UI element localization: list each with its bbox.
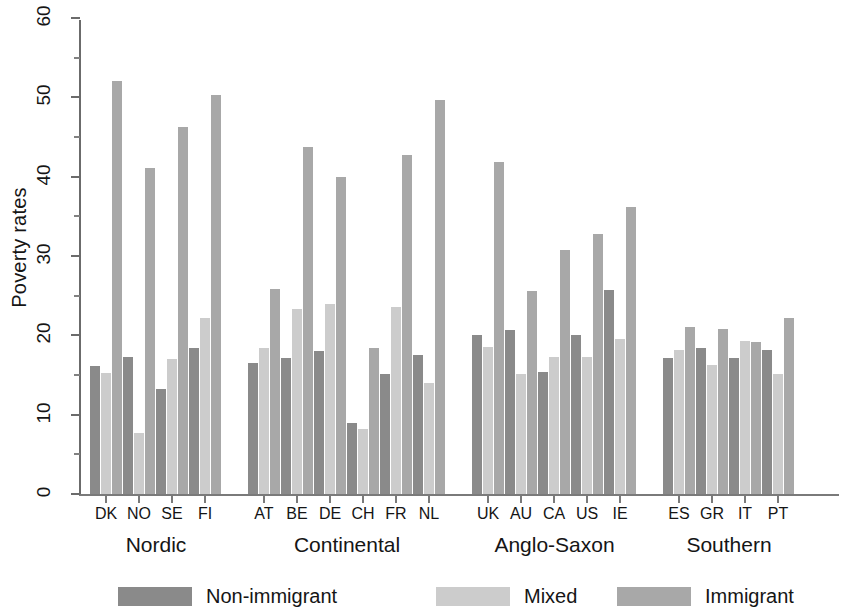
legend-swatch-immigrant [617,587,691,606]
bar-de-non-immigrant [314,351,324,494]
x-tick-ie [619,495,621,503]
country-bars-fr [380,18,413,494]
bar-nl-non-immigrant [413,355,423,494]
legend-label-immigrant: Immigrant [705,585,794,608]
x-tick-no [138,495,140,503]
x-tick-fr [395,495,397,503]
bar-uk-mixed [483,347,493,494]
bar-se-immigrant [178,127,188,494]
x-tick-se [171,495,173,503]
bar-be-mixed [292,309,302,494]
x-tick-at [263,495,265,503]
bar-se-mixed [167,359,177,494]
bar-es-mixed [674,350,684,494]
x-tick-fi [204,495,206,503]
bar-es-immigrant [685,327,695,494]
legend-item-immigrant: Immigrant [617,583,794,609]
x-tick-ch [362,495,364,503]
x-tick-be [296,495,298,503]
y-tick-50 [71,96,80,98]
bar-it-mixed [740,341,750,494]
x-tick-it [744,495,746,503]
x-tick-ca [553,495,555,503]
bar-fr-immigrant [402,155,412,494]
bar-us-non-immigrant [571,335,581,494]
bar-no-non-immigrant [123,357,133,494]
country-bars-at [248,18,281,494]
country-bars-se [156,18,189,494]
y-tick-minor-25 [74,295,80,297]
x-tick-gr [711,495,713,503]
bar-dk-non-immigrant [90,366,100,494]
plot-area [81,18,838,494]
bar-dk-immigrant [112,81,122,494]
legend-swatch-non-immigrant [118,587,192,606]
bar-ca-mixed [549,357,559,494]
bar-de-immigrant [336,177,346,494]
y-tick-10 [71,414,80,416]
bar-se-non-immigrant [156,389,166,495]
country-bars-dk [90,18,123,494]
bar-gr-mixed [707,365,717,494]
bar-no-immigrant [145,168,155,494]
y-tick-label-60: 60 [24,5,64,27]
bar-de-mixed [325,304,335,494]
legend-item-mixed: Mixed [436,583,577,609]
country-label-nl: NL [399,505,459,523]
country-label-pt: PT [748,505,808,523]
country-bars-gr [696,18,729,494]
country-bars-au [505,18,538,494]
bar-pt-immigrant [784,318,794,494]
bar-us-immigrant [593,234,603,494]
bar-fi-mixed [200,318,210,494]
bar-ch-non-immigrant [347,423,357,494]
y-tick-label-20: 20 [24,322,64,344]
country-bars-ie [604,18,637,494]
y-tick-30 [71,255,80,257]
bar-it-immigrant [751,342,761,494]
y-tick-40 [71,176,80,178]
bar-fr-mixed [391,307,401,494]
x-tick-es [678,495,680,503]
bar-be-immigrant [303,147,313,494]
bar-ca-non-immigrant [538,372,548,494]
y-tick-label-10: 10 [24,402,64,424]
bar-be-non-immigrant [281,358,291,494]
y-tick-minor-15 [74,374,80,376]
country-bars-nl [413,18,446,494]
x-tick-de [329,495,331,503]
bar-ie-mixed [615,339,625,494]
bar-ie-immigrant [626,207,636,494]
y-tick-60 [71,17,80,19]
bar-uk-immigrant [494,162,504,494]
chart-legend: Non-immigrantMixedImmigrant [0,583,843,613]
bar-au-non-immigrant [505,330,515,494]
bar-at-mixed [259,348,269,494]
y-tick-0 [71,493,80,495]
x-tick-nl [428,495,430,503]
x-axis-line [79,494,839,496]
y-tick-minor-55 [74,57,80,59]
y-tick-label-30: 30 [24,243,64,265]
y-tick-minor-35 [74,215,80,217]
legend-label-mixed: Mixed [524,585,577,608]
x-tick-dk [105,495,107,503]
bar-ch-mixed [358,429,368,494]
bar-at-non-immigrant [248,363,258,494]
bar-pt-non-immigrant [762,350,772,494]
bar-fi-non-immigrant [189,348,199,494]
x-tick-uk [487,495,489,503]
bar-group-nordic [90,18,222,494]
country-bars-uk [472,18,505,494]
y-tick-label-0: 0 [24,481,64,503]
bar-ie-non-immigrant [604,290,614,494]
bar-no-mixed [134,433,144,494]
country-bars-us [571,18,604,494]
bar-group-southern [663,18,795,494]
bar-uk-non-immigrant [472,335,482,494]
bar-au-mixed [516,374,526,494]
legend-swatch-mixed [436,587,510,606]
bar-fi-immigrant [211,95,221,494]
bar-it-non-immigrant [729,358,739,494]
country-bars-ca [538,18,571,494]
